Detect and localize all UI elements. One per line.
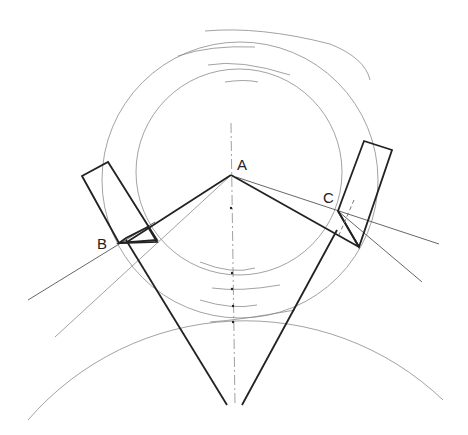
right-edge-to-apex bbox=[242, 230, 337, 405]
label-B: B bbox=[97, 235, 107, 252]
vertical-axis bbox=[231, 123, 235, 405]
label-C: C bbox=[323, 189, 334, 206]
lower-arc bbox=[28, 321, 443, 420]
bottom-construction-arcs bbox=[200, 262, 295, 322]
geometry-diagram: A B C bbox=[0, 0, 468, 435]
line-through-C-right bbox=[338, 211, 422, 282]
right-tool-rectangle bbox=[338, 141, 392, 247]
axis-tick-dots bbox=[230, 207, 234, 323]
label-A: A bbox=[237, 156, 247, 173]
